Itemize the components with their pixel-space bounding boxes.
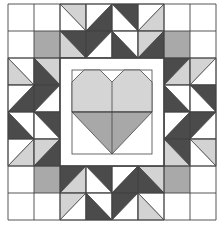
solid-square [164, 31, 190, 58]
solid-square [34, 31, 60, 58]
solid-square [34, 166, 60, 193]
quilt-block [0, 0, 217, 226]
center-heart-panel [60, 58, 164, 166]
solid-square [164, 166, 190, 193]
